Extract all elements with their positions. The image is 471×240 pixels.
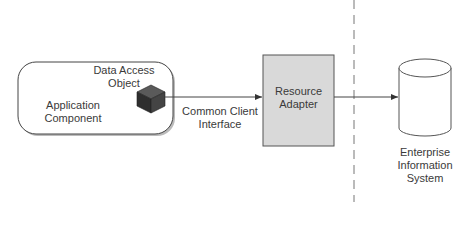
resource-adapter-label-line1: Resource — [263, 85, 334, 98]
data-access-object-label: Data Access Object — [84, 64, 164, 90]
resource-adapter-label-line2: Adapter — [263, 98, 334, 111]
common-client-interface-label: Common Client Interface — [178, 105, 262, 131]
dao-label-line2: Object — [84, 77, 164, 90]
cci-label-line1: Common Client — [178, 105, 262, 118]
eis-label-line3: System — [385, 172, 465, 185]
dao-label-line1: Data Access — [84, 64, 164, 77]
eis-label-line2: Information — [385, 159, 465, 172]
eis-label: Enterprise Information System — [385, 146, 465, 185]
application-component-label: Application Component — [28, 99, 118, 125]
cci-label-line2: Interface — [178, 118, 262, 131]
resource-adapter-label: Resource Adapter — [263, 85, 334, 111]
eis-label-line1: Enterprise — [385, 146, 465, 159]
application-component-label-line1: Application — [28, 99, 118, 112]
database-cylinder-icon — [399, 59, 451, 136]
application-component-label-line2: Component — [28, 112, 118, 125]
